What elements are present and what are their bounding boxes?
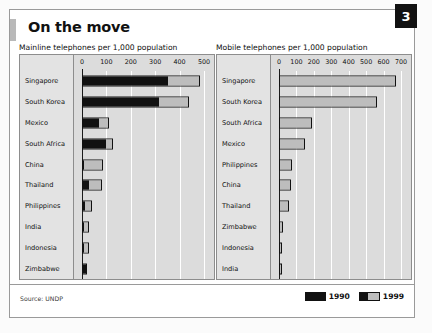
- figure-page: 3 On the move Mainline telephones per 1,…: [0, 0, 432, 333]
- bar-mainline-5: [82, 180, 102, 191]
- chart-frame-mainline: SingaporeSouth KoreaMexicoSouth AfricaCh…: [19, 54, 215, 280]
- category-axis-mainline: SingaporeSouth KoreaMexicoSouth AfricaCh…: [20, 55, 74, 279]
- tick-label-mobile-200: 200: [308, 58, 320, 66]
- plot-area-mobile: 0100200300400500600700: [271, 55, 411, 279]
- bar-mainline-0: [82, 76, 200, 87]
- bar-segment-1999: [280, 202, 288, 211]
- tick-label-mobile-100: 100: [290, 58, 302, 66]
- page-number-badge: 3: [395, 4, 417, 28]
- category-label-mainline-3: South Africa: [25, 140, 65, 148]
- tick-label-mobile-300: 300: [325, 58, 337, 66]
- bar-segment-1999: [280, 77, 395, 86]
- tick-label-mobile-0: 0: [277, 58, 281, 66]
- tick-label-mobile-400: 400: [343, 58, 355, 66]
- bar-mobile-6: [279, 201, 289, 212]
- category-label-mainline-4: China: [25, 161, 44, 169]
- legend-label-1999: 1999: [383, 292, 404, 301]
- legend: 1990 1999: [305, 292, 404, 301]
- category-label-mainline-8: Indonesia: [25, 244, 57, 252]
- bar-mobile-3: [279, 138, 305, 149]
- bar-mobile-7: [279, 222, 283, 233]
- bar-mobile-9: [279, 263, 282, 274]
- chart-panel-mainline: Mainline telephones per 1,000 population…: [19, 41, 215, 286]
- bar-segment-1999: [280, 181, 290, 190]
- bar-segment-1990: [83, 77, 168, 86]
- bar-mobile-0: [279, 76, 396, 87]
- category-label-mobile-9: India: [222, 265, 238, 273]
- bar-mobile-4: [279, 159, 292, 170]
- category-label-mobile-7: Zimbabwe: [222, 223, 257, 231]
- category-label-mainline-7: India: [25, 223, 41, 231]
- bar-mobile-8: [279, 242, 282, 253]
- tick-label-mainline-300: 300: [149, 58, 161, 66]
- bar-rows-mobile: [271, 71, 411, 279]
- bar-mainline-4: [82, 159, 103, 170]
- category-label-mobile-5: China: [222, 181, 241, 189]
- category-label-mobile-0: Singapore: [222, 77, 255, 85]
- value-axis-mainline: 0100200300400500: [74, 55, 214, 71]
- category-label-mainline-6: Philippines: [25, 202, 61, 210]
- bar-mainline-9: [82, 263, 87, 274]
- legend-item-1999: 1999: [359, 292, 404, 301]
- tick-label-mobile-500: 500: [360, 58, 372, 66]
- legend-swatch-1999: [359, 292, 380, 301]
- bar-mainline-8: [82, 242, 89, 253]
- charts-container: Mainline telephones per 1,000 population…: [10, 41, 416, 286]
- bar-segment-1999: [168, 77, 198, 86]
- bar-segment-1990: [83, 98, 159, 107]
- category-label-mobile-2: South Africa: [222, 119, 262, 127]
- value-axis-mobile: 0100200300400500600700: [271, 55, 411, 71]
- accent-mark: [10, 19, 16, 41]
- chart-frame-mobile: SingaporeSouth KoreaSouth AfricaMexicoPh…: [216, 54, 412, 280]
- bar-segment-1990: [83, 139, 106, 148]
- bar-segment-1999: [280, 160, 291, 169]
- tick-label-mainline-0: 0: [80, 58, 84, 66]
- chart-subtitle-mobile: Mobile telephones per 1,000 population: [216, 41, 412, 54]
- legend-swatch-1990: [305, 292, 326, 301]
- category-label-mainline-9: Zimbabwe: [25, 265, 60, 273]
- figure-card: 3 On the move Mainline telephones per 1,…: [9, 9, 415, 318]
- bar-mainline-3: [82, 138, 113, 149]
- bar-segment-1990: [83, 264, 86, 273]
- category-label-mobile-4: Philippines: [222, 161, 258, 169]
- category-label-mobile-1: South Korea: [222, 98, 262, 106]
- bar-segment-1999: [106, 139, 112, 148]
- tick-label-mobile-700: 700: [395, 58, 407, 66]
- bar-mobile-1: [279, 97, 377, 108]
- bar-mobile-5: [279, 180, 291, 191]
- category-label-mainline-1: South Korea: [25, 98, 65, 106]
- category-label-mobile-8: Indonesia: [222, 244, 254, 252]
- chart-panel-mobile: Mobile telephones per 1,000 population S…: [216, 41, 412, 286]
- category-label-mainline-0: Singapore: [25, 77, 58, 85]
- bar-segment-1999: [84, 223, 87, 232]
- bar-segment-1999: [159, 98, 188, 107]
- tick-label-mainline-100: 100: [100, 58, 112, 66]
- legend-item-1990: 1990: [305, 292, 350, 301]
- category-label-mobile-6: Thailand: [222, 202, 250, 210]
- bar-mainline-1: [82, 97, 189, 108]
- page-title: On the move: [28, 19, 130, 35]
- bar-mainline-2: [82, 118, 109, 129]
- bar-segment-1990: [83, 119, 99, 128]
- bar-segment-1999: [280, 264, 281, 273]
- bar-segment-1999: [280, 139, 304, 148]
- tick-label-mainline-500: 500: [198, 58, 210, 66]
- bar-mainline-6: [82, 201, 92, 212]
- tick-label-mobile-600: 600: [377, 58, 389, 66]
- bar-segment-1999: [280, 98, 376, 107]
- bar-segment-1999: [85, 202, 90, 211]
- category-label-mainline-2: Mexico: [25, 119, 48, 127]
- figure-footer: Source: UNDP 1990 1999: [10, 284, 414, 317]
- bar-segment-1999: [84, 243, 88, 252]
- category-label-mobile-3: Mexico: [222, 140, 245, 148]
- category-axis-mobile: SingaporeSouth KoreaSouth AfricaMexicoPh…: [217, 55, 271, 279]
- category-label-mainline-5: Thailand: [25, 181, 53, 189]
- bar-rows-mainline: [74, 71, 214, 279]
- bar-segment-1999: [280, 119, 311, 128]
- source-note: Source: UNDP: [20, 295, 63, 302]
- bar-segment-1999: [280, 243, 281, 252]
- bar-segment-1999: [84, 160, 102, 169]
- tick-label-mainline-400: 400: [173, 58, 185, 66]
- legend-label-1990: 1990: [329, 292, 350, 301]
- tick-label-mainline-200: 200: [125, 58, 137, 66]
